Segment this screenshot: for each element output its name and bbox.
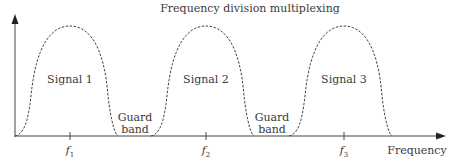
diagram-title: Frequency division multiplexing xyxy=(150,3,350,15)
guard-band-2-label: Guard band xyxy=(252,112,292,136)
f3-label: f3 xyxy=(334,145,354,161)
signal-3-label: Signal 3 xyxy=(314,74,374,86)
f1-label: f1 xyxy=(60,145,80,161)
guard-band-1-label: Guard band xyxy=(115,112,155,136)
x-axis-label: Frequency xyxy=(382,145,452,157)
signal-2-label: Signal 2 xyxy=(176,74,236,86)
y-axis-arrow-icon xyxy=(12,14,19,24)
guard-band-2-line2: band xyxy=(252,124,292,136)
f2-label: f2 xyxy=(196,145,216,161)
signal-1-label: Signal 1 xyxy=(40,74,100,86)
f1-sub: 1 xyxy=(70,151,74,159)
guard-band-1-line2: band xyxy=(115,124,155,136)
f3-sub: 3 xyxy=(344,151,348,159)
f2-sub: 2 xyxy=(206,151,210,159)
x-axis-arrow-icon xyxy=(436,133,446,140)
